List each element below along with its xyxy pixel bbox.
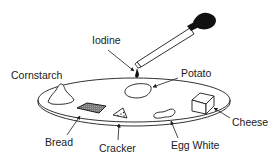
label-egg-white: Egg White (171, 139, 220, 151)
label-iodine: Iodine (92, 34, 121, 46)
label-cheese: Cheese (232, 116, 268, 128)
label-cracker: Cracker (99, 142, 136, 154)
label-potato: Potato (181, 67, 212, 79)
label-bread: Bread (45, 136, 73, 148)
label-cornstarch: Cornstarch (11, 69, 63, 81)
iodine-test-diagram: Iodine Potato Cornstarch Bread Cracker E… (0, 0, 278, 167)
